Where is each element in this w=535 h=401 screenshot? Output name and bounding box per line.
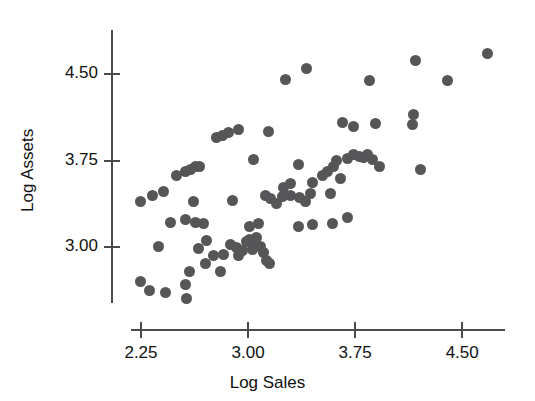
data-point xyxy=(184,266,195,277)
x-axis-tick xyxy=(247,322,249,338)
y-axis-tick xyxy=(104,73,120,75)
y-axis-line xyxy=(111,30,113,303)
data-point xyxy=(305,188,316,199)
data-point xyxy=(342,212,353,223)
data-point xyxy=(193,243,204,254)
data-point xyxy=(335,173,346,184)
data-point xyxy=(153,241,164,252)
data-point xyxy=(293,221,304,232)
data-point xyxy=(410,55,421,66)
x-axis-tick-label: 2.25 xyxy=(101,343,181,363)
data-point xyxy=(237,245,248,256)
data-point xyxy=(482,48,493,59)
data-point xyxy=(307,219,318,230)
data-point xyxy=(407,119,418,130)
data-point xyxy=(301,63,312,74)
y-axis-tick-label: 3.00 xyxy=(6,236,98,256)
data-point xyxy=(135,276,146,287)
x-axis-tick xyxy=(461,322,463,338)
data-point xyxy=(337,117,348,128)
data-point xyxy=(135,196,146,207)
data-point xyxy=(180,214,191,225)
data-point xyxy=(215,266,226,277)
data-point xyxy=(198,218,209,229)
data-point xyxy=(364,75,375,86)
x-axis-tick xyxy=(354,322,356,338)
data-point xyxy=(180,279,191,290)
data-point xyxy=(160,287,171,298)
data-point xyxy=(370,118,381,129)
x-axis-line xyxy=(131,329,505,331)
data-point xyxy=(188,196,199,207)
data-point xyxy=(280,74,291,85)
data-point xyxy=(218,249,229,260)
plot-area: 3.003.754.50 2.253.003.754.50 Log Assets… xyxy=(0,0,535,401)
y-axis-tick xyxy=(104,160,120,162)
data-point xyxy=(285,178,296,189)
x-axis-tick-label: 3.75 xyxy=(315,343,395,363)
data-point xyxy=(442,75,453,86)
y-axis-title: Log Assets xyxy=(18,128,38,211)
x-axis-title: Log Sales xyxy=(0,373,535,393)
data-point xyxy=(415,164,426,175)
data-point xyxy=(165,217,176,228)
data-point xyxy=(325,188,336,199)
y-axis-tick xyxy=(104,246,120,248)
y-axis-tick-label: 4.50 xyxy=(6,63,98,83)
data-point xyxy=(248,154,259,165)
data-point xyxy=(158,186,169,197)
x-axis-tick xyxy=(140,322,142,338)
data-point xyxy=(200,258,211,269)
data-point xyxy=(227,195,238,206)
data-point xyxy=(327,218,338,229)
scatter-plot-figure: 3.003.754.50 2.253.003.754.50 Log Assets… xyxy=(0,0,535,401)
data-point xyxy=(223,127,234,138)
data-point xyxy=(263,126,274,137)
data-point xyxy=(331,155,342,166)
data-point xyxy=(147,190,158,201)
data-point xyxy=(233,124,244,135)
data-point xyxy=(194,161,205,172)
data-point xyxy=(264,258,275,269)
x-axis-tick-label: 4.50 xyxy=(422,343,502,363)
data-point xyxy=(293,159,304,170)
data-point xyxy=(244,221,255,232)
data-point xyxy=(307,177,318,188)
data-point xyxy=(181,293,192,304)
data-point xyxy=(374,161,385,172)
x-axis-tick-label: 3.00 xyxy=(208,343,288,363)
data-point xyxy=(408,109,419,120)
data-point xyxy=(348,121,359,132)
data-point xyxy=(144,285,155,296)
data-point xyxy=(201,235,212,246)
